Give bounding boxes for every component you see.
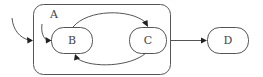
transition-c-to-b[interactable]: [74, 53, 146, 65]
arrowhead-icon: [201, 38, 207, 44]
state-c-label: C: [144, 34, 152, 47]
initial-outer-arrow-line: [12, 18, 29, 40]
transition-b-to-c[interactable]: [73, 13, 148, 27]
transition-initial-to-b[interactable]: [42, 24, 52, 44]
arrowhead-icon: [142, 20, 148, 27]
state-d[interactable]: D: [208, 28, 249, 54]
statechart-diagram: A B C D: [0, 0, 263, 77]
state-c[interactable]: C: [130, 28, 167, 54]
arrowhead-icon: [46, 37, 52, 44]
transition-initial-to-a[interactable]: [12, 18, 33, 44]
transition-a-to-d[interactable]: [171, 38, 208, 44]
state-b[interactable]: B: [52, 28, 93, 54]
state-b-label: B: [68, 34, 76, 47]
c-to-b-arc: [78, 53, 146, 65]
state-a-label: A: [49, 8, 59, 21]
arrowhead-icon: [27, 37, 33, 44]
state-d-label: D: [224, 34, 233, 47]
b-to-c-arc: [73, 13, 145, 27]
